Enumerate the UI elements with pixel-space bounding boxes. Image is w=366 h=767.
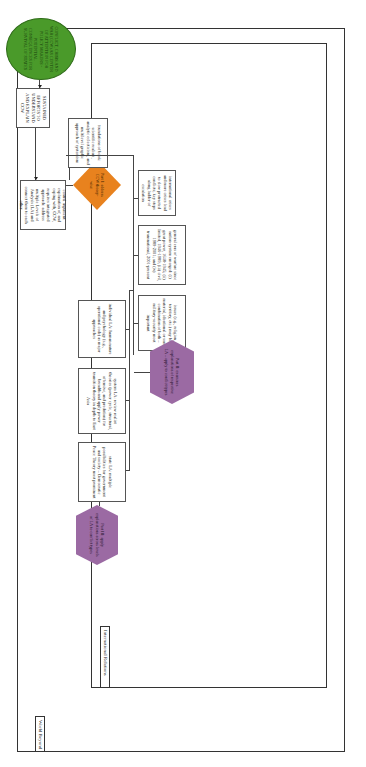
connector bbox=[134, 255, 138, 256]
arrow-icon bbox=[38, 85, 42, 88]
part-three-hexagon: Part III: apply explanations across leve… bbox=[76, 505, 118, 565]
connector bbox=[99, 502, 100, 506]
central-argument-box: central argument: explanation of, and co… bbox=[20, 180, 66, 230]
international-relations-frame bbox=[91, 43, 327, 688]
connector bbox=[130, 290, 133, 291]
connector bbox=[126, 329, 130, 330]
international-relations-label: International Relations bbox=[100, 626, 110, 688]
sustained-efforts-box: SUSTAINED EFFORTS TO UNDERSTAND AND EXPL… bbox=[16, 88, 50, 128]
connector bbox=[66, 155, 134, 156]
connector bbox=[134, 198, 138, 199]
diagram-canvas: World Beyond International Relations CON… bbox=[0, 0, 366, 767]
connector bbox=[129, 290, 130, 470]
crises-box: international crises and more crises lea… bbox=[138, 170, 176, 216]
part-two-hexagon: Part II: examines explanations of respec… bbox=[150, 340, 194, 404]
system-la-box: system LA: review realist theories (powe… bbox=[78, 368, 126, 434]
connector bbox=[126, 470, 130, 471]
world-beyond-label: World Beyond bbox=[35, 716, 45, 752]
issues-box: issues (e.g., religion, territory, etc.)… bbox=[138, 295, 186, 351]
eras-box: general eras of warfare since nation-sys… bbox=[138, 225, 186, 285]
connector bbox=[126, 400, 130, 401]
individual-la-box: individual LA: human nature and psycholo… bbox=[78, 300, 126, 358]
state-la-box: state LA: multiple possibilities for gov… bbox=[78, 442, 126, 502]
foundations-box: foundations of book: scientific realism,… bbox=[68, 118, 108, 168]
connector bbox=[35, 128, 36, 180]
connector bbox=[66, 185, 73, 186]
connector bbox=[134, 372, 150, 373]
connector bbox=[69, 168, 70, 180]
start-ellipse: CONFLICT, CRISIS AND WAR (CCW) AS CENTER… bbox=[6, 18, 76, 80]
connector bbox=[134, 323, 138, 324]
